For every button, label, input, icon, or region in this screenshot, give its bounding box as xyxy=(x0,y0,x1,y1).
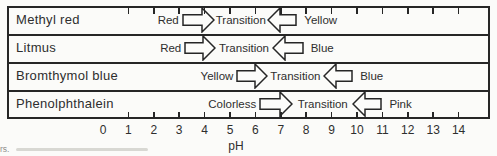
axis-tick-top xyxy=(153,8,155,14)
axis-tick-top xyxy=(407,8,409,14)
axis-number: 6 xyxy=(243,123,267,137)
axis-tick-top xyxy=(432,8,434,14)
axis-number: 11 xyxy=(370,123,394,137)
axis-tick-bottom xyxy=(178,112,180,118)
axis-tick-top xyxy=(255,8,257,14)
axis-tick-bottom xyxy=(305,112,307,118)
axis-tick-bottom xyxy=(458,112,460,118)
axis-number: 7 xyxy=(269,123,293,137)
axis-tick-bottom xyxy=(331,112,333,118)
axis-number: 5 xyxy=(218,123,242,137)
axis-tick-bottom xyxy=(356,112,358,118)
axis-number: 14 xyxy=(447,123,471,137)
axis-tick-top xyxy=(305,8,307,14)
axis-tick-top xyxy=(356,8,358,14)
scan-smudge xyxy=(16,148,148,151)
axis-number: 4 xyxy=(193,123,217,137)
axis-tick-top xyxy=(331,8,333,14)
axis-number: 3 xyxy=(167,123,191,137)
axis-tick-top xyxy=(229,8,231,14)
axis-tick-bottom xyxy=(128,112,130,118)
axis-number: 10 xyxy=(345,123,369,137)
axis-tick-top xyxy=(128,8,130,14)
ph-axis: 01234567891011121314 xyxy=(0,0,497,156)
axis-tick-bottom xyxy=(432,112,434,118)
axis-tick-bottom xyxy=(229,112,231,118)
axis-number: 0 xyxy=(91,123,115,137)
ph-axis-unit-label: pH xyxy=(223,139,249,153)
axis-tick-top xyxy=(382,8,384,14)
axis-tick-top xyxy=(458,8,460,14)
axis-tick-bottom xyxy=(382,112,384,118)
axis-tick-bottom xyxy=(153,112,155,118)
axis-number: 12 xyxy=(396,123,420,137)
axis-number: 1 xyxy=(116,123,140,137)
axis-tick-bottom xyxy=(280,112,282,118)
ph-indicator-figure: Methyl redRedTransitionYellowLitmusRedTr… xyxy=(0,0,497,156)
axis-number: 13 xyxy=(421,123,445,137)
axis-tick-top xyxy=(280,8,282,14)
axis-number: 2 xyxy=(142,123,166,137)
axis-tick-top xyxy=(178,8,180,14)
caption-fragment: rs. xyxy=(0,144,9,154)
axis-number: 8 xyxy=(294,123,318,137)
axis-tick-bottom xyxy=(255,112,257,118)
axis-tick-bottom xyxy=(204,112,206,118)
axis-tick-bottom xyxy=(407,112,409,118)
axis-tick-top xyxy=(204,8,206,14)
axis-number: 9 xyxy=(320,123,344,137)
